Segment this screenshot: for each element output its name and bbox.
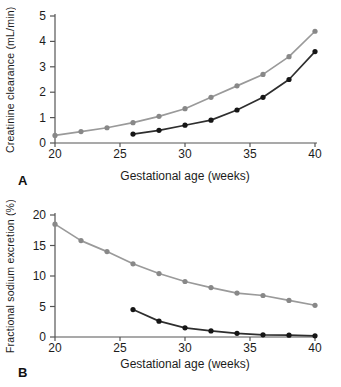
y-tick-label: 4 bbox=[39, 34, 46, 48]
black-series-marker bbox=[182, 325, 187, 330]
gray-series-marker bbox=[312, 29, 317, 34]
gray-series-marker bbox=[52, 133, 57, 138]
black-series-line bbox=[133, 52, 315, 135]
x-tick-label: 35 bbox=[243, 147, 257, 161]
y-tick-label: 1 bbox=[39, 111, 46, 125]
y-tick-label: 5 bbox=[39, 9, 46, 23]
gray-series-marker bbox=[208, 95, 213, 100]
gray-series-marker bbox=[286, 54, 291, 59]
gray-series-marker bbox=[182, 279, 187, 284]
black-series-marker bbox=[286, 333, 291, 338]
gray-series-marker bbox=[130, 261, 135, 266]
gray-series-marker bbox=[234, 290, 239, 295]
black-series-marker bbox=[312, 49, 317, 54]
gray-series-marker bbox=[78, 129, 83, 134]
x-tick-label: 25 bbox=[113, 147, 127, 161]
y-tick-label: 0 bbox=[39, 136, 46, 150]
y-tick-label: 3 bbox=[39, 60, 46, 74]
y-tick-label: 0 bbox=[39, 330, 46, 344]
x-tick-label: 40 bbox=[308, 341, 322, 355]
x-tick-label: 30 bbox=[178, 147, 192, 161]
black-series-marker bbox=[286, 77, 291, 82]
black-series-marker bbox=[156, 319, 161, 324]
panel-b: Fractional sodium excretion (%) 05101520… bbox=[0, 193, 341, 387]
x-tick-label: 20 bbox=[48, 341, 62, 355]
y-tick-label: 15 bbox=[33, 239, 47, 253]
black-series-marker bbox=[156, 128, 161, 133]
gray-series-marker bbox=[182, 106, 187, 111]
gray-series-marker bbox=[208, 285, 213, 290]
black-series-marker bbox=[130, 307, 135, 312]
x-tick-label: 20 bbox=[48, 147, 62, 161]
black-series-marker bbox=[234, 331, 239, 336]
gray-series-line bbox=[55, 31, 315, 135]
black-series-marker bbox=[208, 328, 213, 333]
x-tick-label: 40 bbox=[308, 147, 322, 161]
gray-series-marker bbox=[104, 249, 109, 254]
black-series-marker bbox=[234, 107, 239, 112]
black-series-marker bbox=[312, 333, 317, 338]
panel-letter-b: B bbox=[18, 365, 27, 380]
x-axis-label-gestational-age-a: Gestational age (weeks) bbox=[55, 169, 315, 183]
panel-letter-a: A bbox=[18, 173, 27, 188]
black-series-marker bbox=[260, 332, 265, 337]
x-tick-label: 35 bbox=[243, 341, 257, 355]
two-panel-line-figure: Creatinine clearance (mL/min) 0123452025… bbox=[0, 0, 341, 387]
chart-a-canvas: 0123452025303540 bbox=[0, 0, 341, 193]
y-tick-label: 2 bbox=[39, 85, 46, 99]
x-tick-label: 30 bbox=[178, 341, 192, 355]
gray-series-marker bbox=[104, 125, 109, 130]
gray-series-marker bbox=[260, 72, 265, 77]
y-tick-label: 10 bbox=[33, 269, 47, 283]
black-series-marker bbox=[208, 118, 213, 123]
gray-series-marker bbox=[78, 238, 83, 243]
gray-series-marker bbox=[260, 293, 265, 298]
y-tick-label: 5 bbox=[39, 300, 46, 314]
black-series-marker bbox=[182, 123, 187, 128]
gray-series-marker bbox=[156, 271, 161, 276]
gray-series-marker bbox=[130, 120, 135, 125]
panel-a: Creatinine clearance (mL/min) 0123452025… bbox=[0, 0, 341, 193]
x-tick-label: 25 bbox=[113, 341, 127, 355]
gray-series-marker bbox=[234, 83, 239, 88]
gray-series-line bbox=[55, 224, 315, 305]
gray-series-marker bbox=[286, 298, 291, 303]
gray-series-marker bbox=[312, 303, 317, 308]
gray-series-marker bbox=[156, 114, 161, 119]
gray-series-marker bbox=[52, 222, 57, 227]
y-tick-label: 20 bbox=[33, 208, 47, 222]
black-series-marker bbox=[260, 95, 265, 100]
x-axis-label-gestational-age-b: Gestational age (weeks) bbox=[55, 357, 315, 371]
black-series-marker bbox=[130, 132, 135, 137]
